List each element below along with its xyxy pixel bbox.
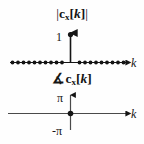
- phase-plot-title: ∡cx[k]: [0, 72, 144, 87]
- magnitude-title-bar-close: |: [85, 6, 88, 21]
- angle-icon: ∡: [52, 71, 65, 86]
- phase-x-axis-label: k: [131, 108, 136, 120]
- magnitude-title-k: k: [74, 6, 81, 21]
- phase-zero-sample: [68, 111, 74, 117]
- magnitude-plot-title: |cx[k]|: [0, 7, 144, 22]
- phase-y-tick-label-pi: π: [57, 92, 63, 104]
- phase-title-bracket-close: ]: [87, 71, 92, 86]
- phase-y-tick-label-neg-pi: -π: [52, 125, 62, 137]
- magnitude-y-tick-label-one: 1: [56, 31, 62, 43]
- phase-plot-group: [8, 95, 126, 130]
- spectrum-figure: |cx[k]| ∡cx[k] 1 π -π k k: [0, 0, 144, 144]
- magnitude-plot-group: [10, 32, 126, 65]
- magnitude-x-axis-label: k: [131, 57, 136, 69]
